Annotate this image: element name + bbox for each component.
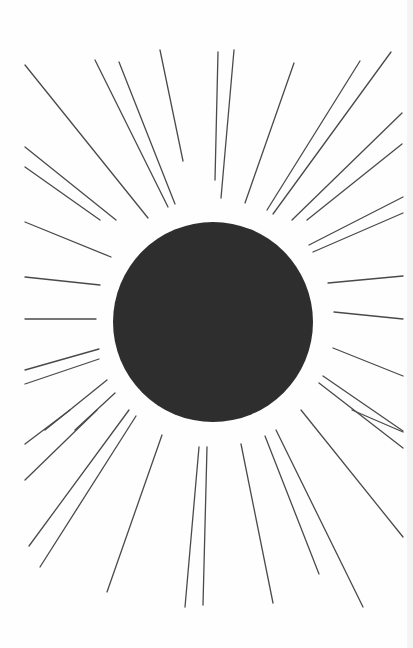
sun-ray xyxy=(323,376,403,431)
sun-ray xyxy=(40,416,136,567)
sun-ray xyxy=(309,197,403,245)
sun-ray xyxy=(95,60,168,207)
sun-ray xyxy=(25,222,111,257)
sun-ray xyxy=(25,410,97,480)
sun-ray xyxy=(265,436,319,574)
sun-ray xyxy=(313,213,403,252)
sun-rays-graphic xyxy=(0,0,413,648)
sun-ray xyxy=(25,167,100,220)
sun-ray xyxy=(301,410,403,537)
sun-ray xyxy=(292,113,402,220)
sun-ray xyxy=(273,52,391,214)
sun-illustration xyxy=(0,0,413,648)
sun-ray xyxy=(267,61,360,210)
sun-ray xyxy=(25,277,100,285)
sun-ray xyxy=(241,444,273,603)
sun-ray xyxy=(185,447,199,607)
sun-ray xyxy=(319,383,403,448)
sun-ray xyxy=(203,447,207,605)
sun-ray xyxy=(245,63,294,203)
sun-ray xyxy=(25,349,99,370)
sun-ray xyxy=(25,147,116,220)
sun-ray xyxy=(221,50,234,198)
page-edge xyxy=(407,0,413,648)
sun-ray xyxy=(25,410,70,444)
sun-ray xyxy=(307,144,402,220)
sun-ray xyxy=(215,52,218,180)
sun-disc xyxy=(113,222,313,422)
sun-ray xyxy=(333,348,403,376)
sun-ray xyxy=(160,50,183,161)
sun-ray xyxy=(25,359,99,384)
sun-ray xyxy=(276,430,363,607)
sun-ray xyxy=(328,276,403,283)
sun-ray xyxy=(107,435,162,592)
sun-ray xyxy=(334,312,403,319)
